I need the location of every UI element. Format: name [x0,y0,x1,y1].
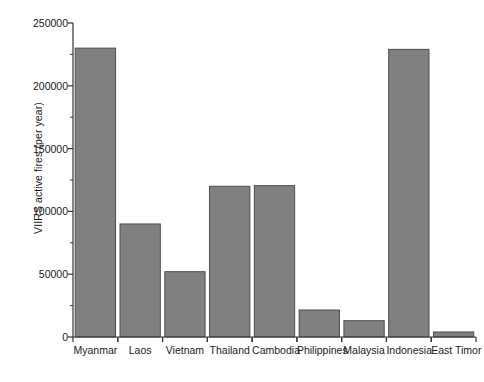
x-tick-label: Philippines [297,344,342,356]
bar [210,186,250,337]
x-tick-label: East Timor [431,344,476,356]
bar [165,272,205,337]
x-tick-label: Indonesia [386,344,431,356]
x-tick-label: Myanmar [73,344,118,356]
x-tick-label: Laos [118,344,163,356]
chart-figure: VIIRS active fires (per year) 0500001000… [0,0,484,382]
x-axis-ticks [73,337,476,342]
bar [299,310,339,337]
bar [75,48,115,337]
bar [433,332,473,337]
bar [254,186,294,337]
x-tick-label: Vietnam [163,344,208,356]
x-tick-label: Cambodia [252,344,297,356]
plot-area [0,0,484,382]
bar [389,49,429,337]
bar [344,321,384,337]
x-tick-label: Thailand [207,344,252,356]
bar [120,224,160,337]
bar-series [75,48,474,337]
x-tick-label: Malaysia [342,344,387,356]
figure-caption [8,373,308,381]
